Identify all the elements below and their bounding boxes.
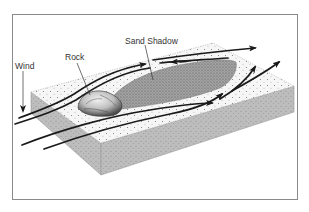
eddy-arrow-1 — [172, 61, 189, 62]
sand-shadow-diagram: Wind Rock Sand Shadow — [0, 0, 309, 212]
label-wind: Wind — [15, 61, 35, 71]
label-sand-shadow: Sand Shadow — [125, 36, 179, 46]
diagram-canvas: Wind Rock Sand Shadow — [0, 0, 309, 212]
label-rock: Rock — [65, 52, 85, 62]
